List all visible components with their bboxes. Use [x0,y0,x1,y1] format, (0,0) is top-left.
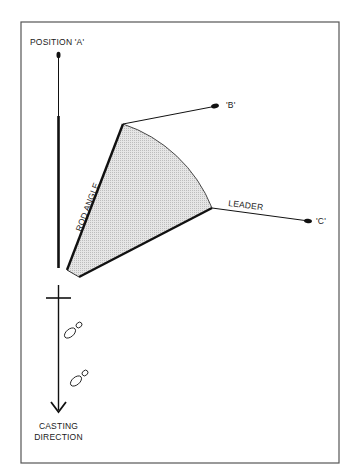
point-b-fly-icon [211,103,220,109]
left-footprint-icon [63,321,83,340]
casting-direction-label-line2: DIRECTION [34,432,83,442]
position-a-label: POSITION 'A' [30,37,84,47]
point-c-label: 'C' [316,216,326,226]
diagram-frame [21,22,339,463]
right-footprint-icon [69,369,89,388]
casting-diagram: POSITION 'A' ROD ANGLE 'B' 'C' LEADER CA… [0,0,356,476]
leader-label: LEADER [228,198,264,212]
leader-line-b [123,107,214,125]
point-c-fly-icon [304,218,313,223]
point-b-label: 'B' [226,100,236,110]
casting-direction-label-line1: CASTING [39,421,78,431]
